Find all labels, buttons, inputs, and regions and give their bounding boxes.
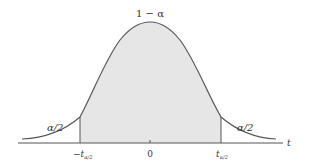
left-critical-label: −tα/2 [73,149,92,160]
center-tick-label: 0 [147,149,153,159]
central-shaded-region [80,22,221,143]
right-tail-area-label: α/2 [237,122,253,133]
axis-variable-label: t [287,138,291,148]
left-tail-area-label: α/2 [47,122,63,133]
right-critical-label: tα/2 [216,149,228,160]
left-critical-subscript: α/2 [84,154,92,160]
t-distribution-diagram: 1 − α α/2 α/2 −tα/2 0 tα/2 t [0,0,311,167]
center-area-label: 1 − α [136,8,164,19]
right-critical-subscript: α/2 [220,154,228,160]
left-critical-main: −t [73,149,85,159]
